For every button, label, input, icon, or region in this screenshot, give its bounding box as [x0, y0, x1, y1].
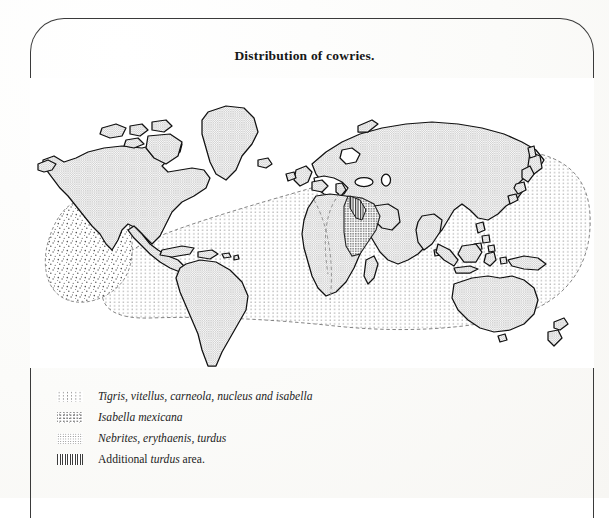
legend-item-tigris: Tigris, vitellus, carneola, nucleus and …	[57, 386, 487, 407]
legend-label-additional-turdus-prefix: Additional	[98, 453, 151, 466]
legend-label-additional-turdus: Additional turdus area.	[98, 453, 205, 466]
land-maluku	[500, 257, 507, 264]
legend-swatch-vertical-hatch-icon	[57, 454, 83, 465]
world-distribution-map	[30, 78, 594, 368]
land-black-sea	[355, 178, 373, 187]
map-svg	[30, 78, 594, 368]
legend: Tigris, vitellus, carneola, nucleus and …	[57, 386, 487, 470]
land-caspian-sea	[382, 174, 391, 186]
legend-item-additional-turdus: Additional turdus area.	[57, 449, 487, 470]
land-lesser-antilles	[234, 255, 239, 260]
land-philippines-2	[482, 235, 490, 243]
legend-label-isabella-mexicana: Isabella mexicana	[98, 411, 183, 424]
legend-swatch-scatter-dots-icon	[57, 412, 83, 423]
land-philippines-4	[488, 245, 495, 252]
legend-label-additional-turdus-italic: turdus	[151, 453, 180, 466]
legend-label-nebrites: Nebrites, erythaenis, turdus	[98, 432, 226, 445]
land-puerto-rico	[222, 253, 231, 258]
legend-item-nebrites: Nebrites, erythaenis, turdus	[57, 428, 487, 449]
legend-label-additional-turdus-suffix: area.	[180, 453, 205, 466]
legend-label-tigris: Tigris, vitellus, carneola, nucleus and …	[98, 390, 312, 403]
legend-swatch-dense-dots-icon	[57, 433, 83, 444]
legend-item-isabella-mexicana: Isabella mexicana	[57, 407, 487, 428]
page-title: Distribution of cowries.	[0, 48, 609, 64]
land-sakhalin	[528, 146, 536, 158]
land-tasmania	[498, 334, 507, 342]
legend-swatch-sparse-dots-icon	[57, 391, 83, 402]
